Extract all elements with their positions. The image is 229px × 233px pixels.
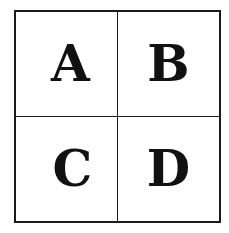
cell-b: B [118,12,219,117]
quadrant-grid: A B C D [14,10,221,223]
cell-d: D [118,117,219,221]
cell-label: D [147,144,190,194]
cell-label: A [51,39,90,89]
cell-a: A [16,12,118,117]
cell-label: B [147,39,189,89]
cell-label: C [53,144,93,194]
cell-c: C [16,117,118,221]
